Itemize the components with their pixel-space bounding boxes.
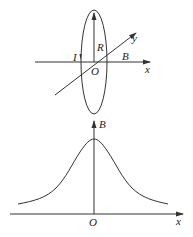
field-curve [18,139,168,204]
field-label-top: B [122,50,129,62]
origin-label-top: O [91,65,99,77]
radius-label: R [96,41,104,53]
y-axis-top [55,33,136,95]
diagram-canvas: I R O B x y B O x [0,0,193,237]
b-axis-label: B [99,118,106,130]
current-loop-diagram: I R O B x y [35,10,150,114]
field-profile-chart: B O x [10,118,183,228]
y-axis-label-top: y [131,32,137,44]
x-axis-label-top: x [144,63,150,75]
origin-label-bottom: O [89,216,97,228]
x-axis-label-bottom: x [175,215,181,227]
current-label: I [72,51,78,63]
